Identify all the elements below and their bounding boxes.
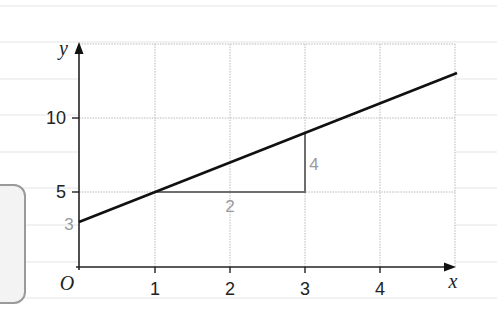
- y-tick-label-10: 10: [46, 108, 66, 128]
- plot-area: [79, 44, 455, 267]
- x-tick-label-1: 1: [150, 279, 160, 299]
- y-tick-label-5: 5: [56, 182, 66, 202]
- x-axis-label: x: [448, 270, 458, 292]
- intercept-annotation: 3: [64, 215, 73, 234]
- origin-label: O: [60, 272, 74, 294]
- x-tick-label-3: 3: [300, 279, 310, 299]
- run-annotation: 2: [225, 197, 234, 216]
- rise-annotation: 4: [309, 155, 318, 174]
- x-tick-label-4: 4: [375, 279, 385, 299]
- line-chart: 10 5 1 2 3 4 y x O 3 2 4: [0, 0, 497, 321]
- x-tick-label-2: 2: [225, 279, 235, 299]
- y-axis-label: y: [57, 37, 68, 60]
- side-note-box: [0, 185, 25, 303]
